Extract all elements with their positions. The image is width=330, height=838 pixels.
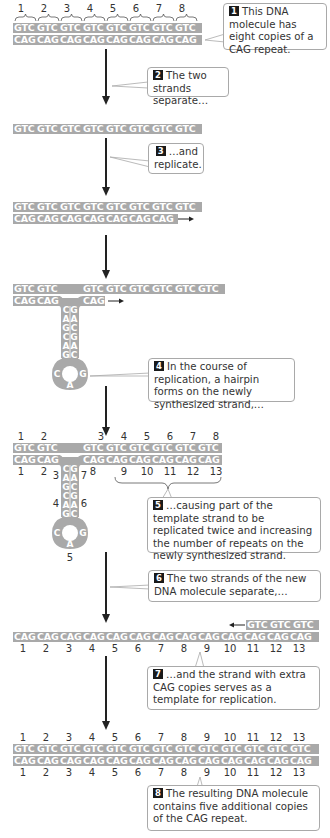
codon: GTC bbox=[106, 23, 129, 33]
repeat-number: 4 bbox=[85, 732, 99, 743]
repeat-number: 2 bbox=[37, 431, 51, 442]
repeat-number: 2 bbox=[37, 3, 51, 14]
codon: GTC bbox=[14, 744, 37, 754]
loop-base: C bbox=[54, 369, 61, 379]
codon: GTC bbox=[175, 284, 198, 294]
callout-text: …and the strand with extra CAG copies se… bbox=[153, 669, 306, 705]
codon: GTC bbox=[129, 443, 152, 453]
callout-text: The two strands of the new DNA molecule … bbox=[154, 573, 306, 597]
repeat-number: 3 bbox=[60, 3, 74, 14]
repeat-number: 7 bbox=[154, 767, 168, 778]
repeat-number: 6 bbox=[129, 3, 143, 14]
loop-base: A bbox=[67, 380, 74, 390]
step2-single-strand: GTCGTCGTCGTCGTCGTCGTCGTC bbox=[13, 124, 202, 134]
callout-6-pointer bbox=[110, 582, 150, 592]
hairpin-base: C bbox=[71, 350, 78, 360]
hairpin-repeat-number: 6 bbox=[81, 498, 87, 509]
codon: CAG bbox=[106, 756, 129, 766]
arrow-6-head bbox=[102, 721, 110, 730]
repeat-number: 10 bbox=[140, 466, 154, 477]
step-badge: 8 bbox=[153, 788, 163, 798]
codon: GTC bbox=[293, 620, 316, 630]
codon: GTC bbox=[198, 443, 221, 453]
step-badge: 4 bbox=[154, 361, 164, 371]
codon: CAG bbox=[244, 632, 267, 642]
step6-long-strand: CAGCAGCAGCAGCAGCAGCAGCAGCAGCAGCAGCAGCAG bbox=[13, 632, 319, 642]
repeat-number: 6 bbox=[131, 643, 145, 654]
step-badge: 7 bbox=[153, 669, 163, 679]
repeat-number: 4 bbox=[83, 3, 97, 14]
callout-step-4: 4In the course of replication, a hairpin… bbox=[148, 358, 295, 402]
loop-base: C bbox=[54, 528, 61, 538]
codon: CAG bbox=[152, 214, 175, 224]
codon: GTC bbox=[244, 744, 267, 754]
codon: GTC bbox=[37, 23, 60, 33]
codon: CAG bbox=[244, 756, 267, 766]
repeat-number: 1 bbox=[16, 643, 30, 654]
repeat-number: 13 bbox=[209, 466, 223, 477]
repeat-number: 6 bbox=[131, 732, 145, 743]
codon: CAG bbox=[290, 756, 313, 766]
codon: CAG bbox=[83, 214, 106, 224]
codon: CAG bbox=[60, 756, 83, 766]
codon: GTC bbox=[129, 744, 152, 754]
codon: CAG bbox=[60, 35, 83, 45]
callout-text: …causing part of the template strand to … bbox=[153, 500, 312, 561]
repeat-number: 3 bbox=[94, 431, 108, 442]
codon: GTC bbox=[152, 23, 175, 33]
repeat-number: 3 bbox=[62, 643, 76, 654]
repeat-number: 13 bbox=[292, 732, 306, 743]
repeat-number: 5 bbox=[108, 643, 122, 654]
repeat-number: 1 bbox=[14, 466, 28, 477]
repeat-number: 2 bbox=[39, 643, 53, 654]
codon: CAG bbox=[290, 632, 313, 642]
callout-3-pointer bbox=[110, 155, 150, 171]
repeat-number: 3 bbox=[62, 732, 76, 743]
arrow-1-shaft bbox=[105, 49, 107, 97]
step8-top-numbers: 1 2 3 4 5 6 7 8 9 10 11 12 13 bbox=[16, 732, 326, 743]
codon: GTC bbox=[152, 124, 175, 134]
codon: GTC bbox=[198, 284, 221, 294]
repeat-number: 1 bbox=[16, 732, 30, 743]
codon: CAG bbox=[106, 214, 129, 224]
codon: GTC bbox=[175, 23, 198, 33]
hairpin-repeat-number: 7 bbox=[81, 470, 87, 481]
repeat-number: 13 bbox=[292, 643, 306, 654]
repeat-number: 8 bbox=[177, 767, 191, 778]
repeat-number: 7 bbox=[154, 732, 168, 743]
codon: GTC bbox=[152, 443, 175, 453]
codon: CAG bbox=[14, 756, 37, 766]
codon: GTC bbox=[175, 443, 198, 453]
codon: CAG bbox=[14, 35, 37, 45]
codon: GTC bbox=[14, 23, 37, 33]
callout-step-7: 7…and the strand with extra CAG copies s… bbox=[147, 666, 320, 710]
codon: CAG bbox=[60, 214, 83, 224]
repeat-number: 10 bbox=[223, 643, 237, 654]
callout-step-1: 1This DNA molecule has eight copies of a… bbox=[223, 3, 327, 50]
codon: CAG bbox=[175, 35, 198, 45]
codon: CAG bbox=[129, 455, 152, 465]
callout-step-8: 8The resulting DNA molecule contains fiv… bbox=[147, 785, 320, 831]
synthesis-direction-arrow bbox=[108, 296, 124, 306]
callout-4-pointer bbox=[90, 370, 150, 380]
repeat-number: 11 bbox=[246, 643, 260, 654]
codon: GTC bbox=[129, 23, 152, 33]
codon: CAG bbox=[14, 214, 37, 224]
codon: GTC bbox=[106, 124, 129, 134]
repeat-number: 12 bbox=[269, 732, 283, 743]
repeat-number: 10 bbox=[223, 732, 237, 743]
codon: CAG bbox=[37, 632, 60, 642]
hairpin-loop-step4: C A G C A G G A C G A C C A G bbox=[40, 296, 100, 396]
callout-step-6: 6The two strands of the new DNA molecule… bbox=[148, 570, 321, 602]
repeat-number: 11 bbox=[246, 732, 260, 743]
codon: GTC bbox=[37, 443, 60, 453]
codon: CAG bbox=[129, 35, 152, 45]
codon: GTC bbox=[83, 124, 106, 134]
codon: CAG bbox=[175, 756, 198, 766]
callout-text: The resulting DNA molecule contains five… bbox=[153, 788, 308, 824]
repeat-number: 1 bbox=[16, 767, 30, 778]
codon: GTC bbox=[221, 744, 244, 754]
hairpin-loop-step5: C A G C A G G A C G A C C A G 3 4 5 6 7 bbox=[40, 455, 100, 555]
step1-bottom-strand: CAGCAGCAGCAGCAGCAGCAGCAG bbox=[13, 35, 202, 45]
codon: CAG bbox=[152, 756, 175, 766]
